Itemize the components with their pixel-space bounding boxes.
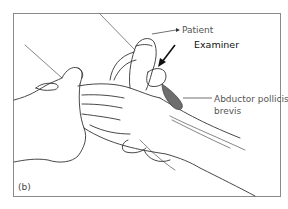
label-examiner: Examiner xyxy=(194,40,239,50)
patient-leader-line xyxy=(152,30,176,34)
label-patient: Patient xyxy=(182,25,213,35)
hand-examination-illustration xyxy=(0,0,288,209)
examiner-arrow xyxy=(162,45,175,62)
label-muscle-line2: brevis xyxy=(214,106,241,116)
label-muscle-line1: Abductor pollicis xyxy=(214,94,288,104)
panel-label: (b) xyxy=(18,182,31,192)
muscle-highlight xyxy=(162,84,182,110)
